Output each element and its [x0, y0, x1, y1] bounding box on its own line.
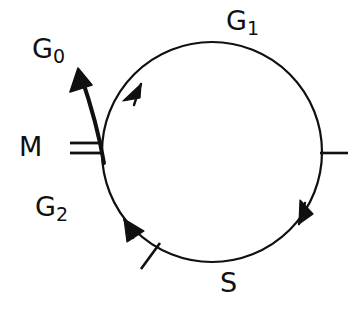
label-g0-base: G — [32, 33, 53, 64]
g1-direction-arrowhead — [123, 84, 141, 105]
label-s-base: S — [220, 267, 237, 298]
g2-direction-arrowhead — [124, 219, 144, 242]
label-m: M — [19, 133, 42, 160]
label-m-base: M — [19, 131, 42, 162]
s-g2-boundary-tick — [141, 243, 160, 269]
label-s: S — [220, 269, 237, 296]
label-g1-subscript: 1 — [247, 17, 259, 39]
cell-cycle-diagram: G0 M G2 G1 S — [0, 0, 355, 313]
label-g2-subscript: 2 — [56, 203, 68, 225]
s-direction-arrowhead — [299, 200, 313, 224]
g0-exit-arrow — [70, 68, 104, 163]
label-g1-base: G — [226, 5, 247, 36]
label-g0-subscript: 0 — [53, 45, 65, 67]
label-g0: G0 — [32, 35, 65, 66]
label-g2: G2 — [35, 193, 68, 224]
label-g2-base: G — [35, 191, 56, 222]
label-g1: G1 — [226, 7, 259, 38]
